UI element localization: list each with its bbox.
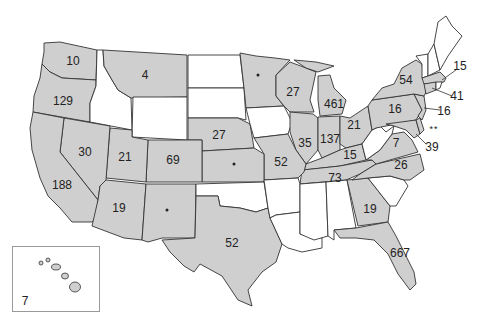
label-il: 35 bbox=[298, 137, 311, 149]
label-ut: 21 bbox=[118, 151, 131, 163]
label-ct: 41 bbox=[450, 90, 463, 102]
label-de: ** bbox=[429, 125, 438, 134]
hawaii-inset: 7 bbox=[12, 246, 100, 312]
label-mt: 4 bbox=[142, 69, 149, 81]
label-mi: 461 bbox=[324, 98, 344, 110]
label-hi: 7 bbox=[22, 295, 29, 307]
label-ca: 188 bbox=[52, 179, 72, 191]
label-tx: 52 bbox=[225, 237, 238, 249]
label-ga: 19 bbox=[363, 203, 376, 215]
state-sd[interactable] bbox=[188, 88, 246, 120]
label-tn: 73 bbox=[328, 172, 341, 184]
marker-ks bbox=[233, 163, 236, 166]
label-wa: 10 bbox=[66, 55, 79, 67]
label-md: 39 bbox=[425, 141, 438, 153]
state-ia[interactable] bbox=[246, 106, 292, 138]
label-oh: 21 bbox=[347, 119, 360, 131]
label-co: 69 bbox=[166, 154, 179, 166]
label-ma: 15 bbox=[453, 60, 466, 72]
leader-ct bbox=[432, 88, 452, 96]
state-nd[interactable] bbox=[188, 55, 244, 88]
state-wy[interactable] bbox=[132, 97, 187, 140]
label-fl: 667 bbox=[390, 247, 410, 259]
state-ri[interactable] bbox=[436, 82, 442, 90]
marker-nm bbox=[166, 209, 169, 212]
label-ne: 27 bbox=[212, 129, 225, 141]
label-ky: 15 bbox=[343, 149, 356, 161]
label-va: 7 bbox=[393, 137, 400, 149]
state-nm[interactable] bbox=[142, 184, 196, 242]
state-ms[interactable] bbox=[300, 182, 328, 240]
label-nc: 26 bbox=[394, 159, 407, 171]
label-mo: 52 bbox=[274, 156, 287, 168]
label-pa: 16 bbox=[388, 103, 401, 115]
label-nj: 16 bbox=[437, 105, 450, 117]
label-in: 137 bbox=[320, 133, 340, 145]
label-ny: 54 bbox=[399, 74, 412, 86]
label-nv: 30 bbox=[78, 146, 91, 158]
state-ar[interactable] bbox=[264, 178, 300, 218]
state-ct[interactable] bbox=[424, 82, 436, 94]
label-az: 19 bbox=[112, 202, 125, 214]
label-wi: 27 bbox=[286, 86, 299, 98]
label-or: 129 bbox=[53, 95, 73, 107]
marker-mn bbox=[257, 74, 260, 77]
